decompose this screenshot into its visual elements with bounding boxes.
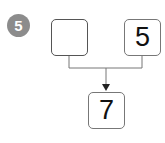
blank-answer-box[interactable] xyxy=(51,19,88,56)
given-number-box: 5 xyxy=(124,19,161,56)
total-number-box: 7 xyxy=(88,92,125,129)
arrow-down-icon xyxy=(102,84,110,91)
